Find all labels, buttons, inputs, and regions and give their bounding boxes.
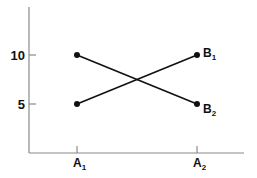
series-b2-point-a1 [74,52,80,58]
x-label-a2: A2 [193,156,207,172]
x-label-a1: A1 [73,156,87,172]
series-b2-label: B2 [203,102,217,118]
series-b1-label: B1 [203,46,217,62]
interaction-line-chart: 10 5 A1 A2 B1 B2 [0,0,257,178]
series-b2-point-a2 [194,101,200,107]
series-b1-point-a1 [74,101,80,107]
series-b1: B1 [74,46,217,107]
y-tick-label-5: 5 [18,97,25,112]
series-b2: B2 [74,52,217,118]
y-tick-label-10: 10 [11,48,25,63]
series-b1-point-a2 [194,52,200,58]
